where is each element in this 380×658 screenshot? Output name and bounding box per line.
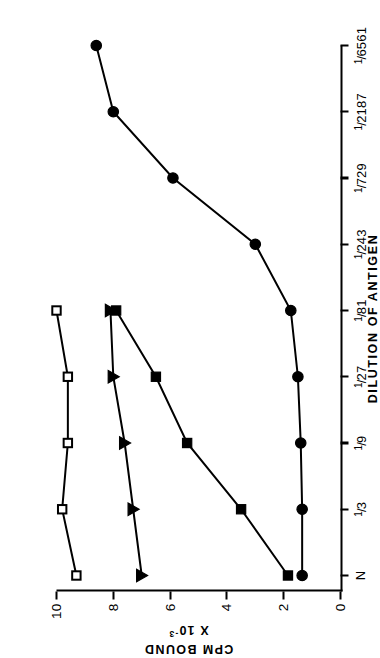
data-point-filled-square-series-0 — [283, 570, 292, 579]
data-point-open-square-series-4 — [52, 306, 60, 314]
data-point-filled-square-series-1 — [236, 504, 245, 513]
series-filled-triangle-series — [105, 304, 147, 581]
data-point-filled-circle-series-8 — [91, 40, 101, 50]
series-filled-square-series — [111, 305, 292, 579]
y-axis-title-exponent: -3 — [168, 629, 178, 639]
data-point-filled-square-series-4 — [111, 305, 120, 314]
data-point-open-square-series-1 — [57, 505, 65, 513]
series-filled-circle-series — [91, 40, 307, 580]
y-axis-title: CPM BOUND X 10-3 — [143, 620, 233, 657]
data-point-filled-circle-series-2 — [295, 437, 305, 447]
data-point-filled-circle-series-1 — [296, 504, 306, 514]
y-axis-title-line2: X 10-3 — [143, 620, 233, 639]
data-point-filled-circle-series-4 — [285, 305, 295, 315]
y-axis-title-line1: CPM BOUND — [143, 642, 233, 656]
data-point-open-square-series-3 — [63, 372, 71, 380]
data-point-open-square-series-2 — [63, 438, 71, 446]
data-point-filled-square-series-3 — [151, 372, 160, 381]
data-point-open-square-series-0 — [72, 571, 80, 579]
series-open-square-series — [52, 306, 80, 579]
series-line-filled-circle-series — [96, 45, 302, 575]
data-point-filled-circle-series-3 — [292, 371, 302, 381]
series-line-filled-square-series — [116, 310, 288, 575]
y-axis-title-line2-text: X 10 — [178, 622, 209, 636]
data-point-filled-square-series-2 — [182, 438, 191, 447]
data-point-filled-circle-series-0 — [296, 570, 306, 580]
x-axis-title: DILUTION OF ANTIGEN — [365, 233, 379, 403]
data-point-filled-circle-series-7 — [108, 106, 118, 116]
